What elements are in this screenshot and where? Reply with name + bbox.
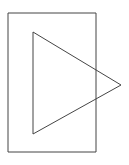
diagram-canvas — [0, 0, 129, 165]
shape-diagram-svg — [0, 0, 129, 165]
canvas-background — [0, 0, 129, 165]
